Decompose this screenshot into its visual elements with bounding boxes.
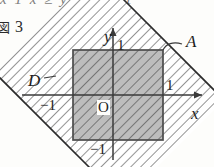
figure-container: x 1 x ≥ y = x + 1 図 3	[0, 0, 214, 167]
region-A-label: A	[186, 33, 196, 50]
x-tick-negative-one: −1	[40, 98, 56, 113]
y-axis-label: y	[104, 28, 112, 45]
origin-label: O	[97, 100, 110, 115]
region-D-label: D	[28, 72, 40, 89]
y-tick-negative-one: −1	[90, 142, 106, 157]
x-tick-positive-one: 1	[166, 78, 174, 93]
y-tick-positive-one: 1	[117, 38, 125, 53]
x-axis-label: x	[191, 105, 199, 122]
